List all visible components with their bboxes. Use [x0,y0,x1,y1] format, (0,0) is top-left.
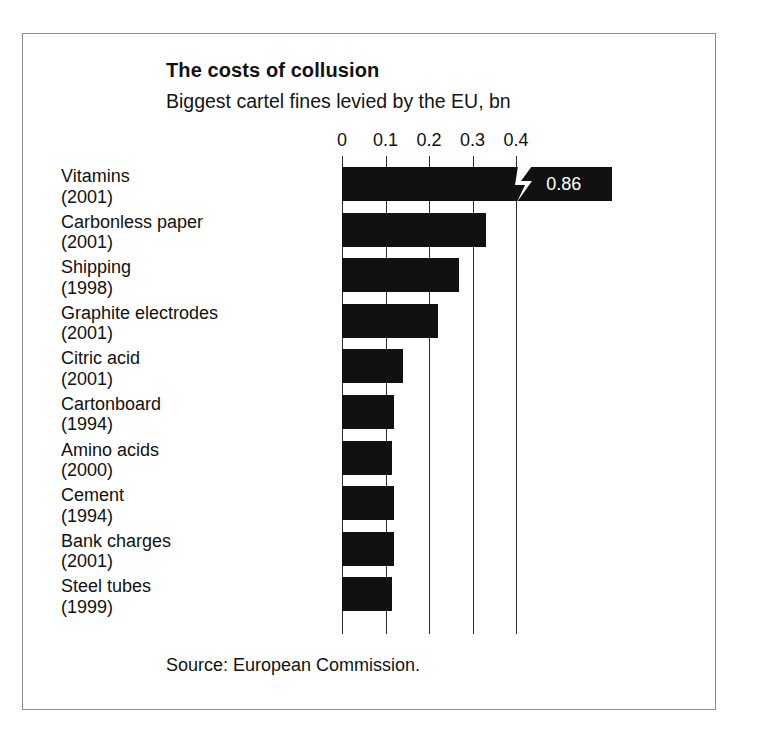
x-tick-label-3: 0.3 [460,130,485,151]
bar-category-name: Graphite electrodes [61,303,333,324]
bar-cartonboard [342,395,394,429]
bar-category-name: Cement [61,485,333,506]
figure-page: The costs of collusion Biggest cartel fi… [0,0,762,746]
bar-row: Bank charges(2001) [23,529,717,575]
bar-track [342,574,702,620]
bar-row: Graphite electrodes(2001) [23,301,717,347]
bar-amino-acids [342,441,392,475]
bar-track [342,529,702,575]
x-tick-label-4: 0.4 [503,130,528,151]
bar-category-name: Shipping [61,257,333,278]
x-tick-label-0: 0 [337,130,347,151]
bar-category-label: Bank charges(2001) [61,531,333,572]
bar-category-year: (1999) [61,597,333,618]
source-note: Source: European Commission. [166,655,420,676]
bar-row: Amino acids(2000) [23,438,717,484]
bar-category-year: (2001) [61,551,333,572]
bar-category-label: Steel tubes(1999) [61,576,333,617]
bar-row: Vitamins(2001)0.86 [23,164,717,210]
bar-row: Carbonless paper(2001) [23,210,717,256]
bar-category-year: (1994) [61,414,333,435]
bar-category-name: Steel tubes [61,576,333,597]
bar-value-label: 0.86 [546,174,581,195]
bar-category-label: Cartonboard(1994) [61,394,333,435]
bar-shipping [342,258,459,292]
bar-category-year: (2001) [61,232,333,253]
bar-track [342,210,702,256]
bar-category-name: Amino acids [61,440,333,461]
bar-cement [342,486,394,520]
bar-category-year: (1994) [61,506,333,527]
bar-category-label: Shipping(1998) [61,257,333,298]
bar-category-label: Vitamins(2001) [61,166,333,207]
bar-steel-tubes [342,577,392,611]
bar-row: Cartonboard(1994) [23,392,717,438]
bar-category-name: Cartonboard [61,394,333,415]
axis-break-icon [512,166,538,202]
bar-track: 0.86 [342,164,702,210]
bar-rows: Vitamins(2001)0.86Carbonless paper(2001)… [23,164,717,620]
x-tick-label-1: 0.1 [373,130,398,151]
bar-category-label: Cement(1994) [61,485,333,526]
bar-row: Citric acid(2001) [23,346,717,392]
x-axis-tick-labels: 00.10.20.30.4 [23,130,717,152]
bar-category-name: Vitamins [61,166,333,187]
bar-category-year: (2001) [61,369,333,390]
bar-track [342,438,702,484]
bar-citric-acid [342,349,403,383]
bar-track [342,483,702,529]
bar-bank-charges [342,532,394,566]
bar-category-year: (1998) [61,278,333,299]
bar-carbonless-paper [342,213,486,247]
bar-category-name: Bank charges [61,531,333,552]
figure-frame: The costs of collusion Biggest cartel fi… [22,33,716,710]
bar-category-label: Graphite electrodes(2001) [61,303,333,344]
bar-row: Shipping(1998) [23,255,717,301]
bar-category-label: Citric acid(2001) [61,348,333,389]
bar-category-label: Amino acids(2000) [61,440,333,481]
bar-track [342,301,702,347]
bar-row: Steel tubes(1999) [23,574,717,620]
bar-vitamins: 0.86 [342,167,612,201]
bar-chart: 00.10.20.30.4 Vitamins(2001)0.86Carbonle… [23,34,717,711]
bar-category-name: Citric acid [61,348,333,369]
bar-track [342,392,702,438]
bar-category-name: Carbonless paper [61,212,333,233]
bar-category-label: Carbonless paper(2001) [61,212,333,253]
bar-row: Cement(1994) [23,483,717,529]
bar-category-year: (2001) [61,323,333,344]
x-tick-label-2: 0.2 [416,130,441,151]
bar-track [342,346,702,392]
bar-category-year: (2000) [61,460,333,481]
bar-category-year: (2001) [61,187,333,208]
bar-graphite-electrodes [342,304,438,338]
bar-track [342,255,702,301]
